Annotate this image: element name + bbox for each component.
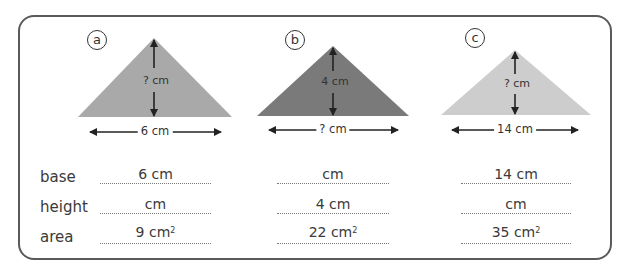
answer-c-height[interactable]: cm — [461, 196, 571, 214]
answer-a-base[interactable]: 6 cm — [100, 166, 211, 184]
answer-c-base-text: 14 cm — [494, 166, 538, 182]
answer-b-height[interactable]: 4 cm — [277, 196, 389, 214]
base-label-b: ? cm — [316, 122, 349, 136]
height-label-c: ? cm — [503, 77, 531, 90]
height-label-b: 4 cm — [320, 75, 349, 88]
answer-a-height-text: cm — [145, 196, 166, 212]
answer-a-area-text: 9 cm — [136, 224, 171, 240]
height-label-a: ? cm — [142, 74, 170, 87]
answer-c-area-text: 35 cm — [492, 224, 536, 240]
answer-b-base[interactable]: cm — [277, 166, 389, 184]
figure-label-a: a — [87, 30, 107, 50]
row-label-base: base — [40, 168, 76, 186]
figure-label-c: c — [465, 28, 485, 48]
answer-b-area-sup: 2 — [352, 226, 357, 235]
base-label-a: 6 cm — [138, 124, 173, 138]
row-label-area: area — [40, 228, 73, 246]
answer-c-area-sup: 2 — [535, 226, 540, 235]
row-label-height: height — [40, 198, 88, 216]
base-label-c: 14 cm — [494, 122, 536, 136]
answer-b-area-text: 22 cm — [309, 224, 353, 240]
answer-a-base-text: 6 cm — [138, 166, 173, 182]
answer-c-base[interactable]: 14 cm — [461, 166, 571, 184]
answer-c-height-text: cm — [505, 196, 526, 212]
answer-b-height-text: 4 cm — [316, 196, 351, 212]
answer-a-area[interactable]: 9 cm2 — [100, 226, 211, 244]
answer-a-area-sup: 2 — [170, 226, 175, 235]
answer-b-area[interactable]: 22 cm2 — [277, 226, 389, 244]
figure-label-b: b — [285, 30, 305, 50]
answer-b-base-text: cm — [322, 166, 343, 182]
answer-a-height[interactable]: cm — [100, 196, 211, 214]
answer-c-area[interactable]: 35 cm2 — [461, 226, 571, 244]
